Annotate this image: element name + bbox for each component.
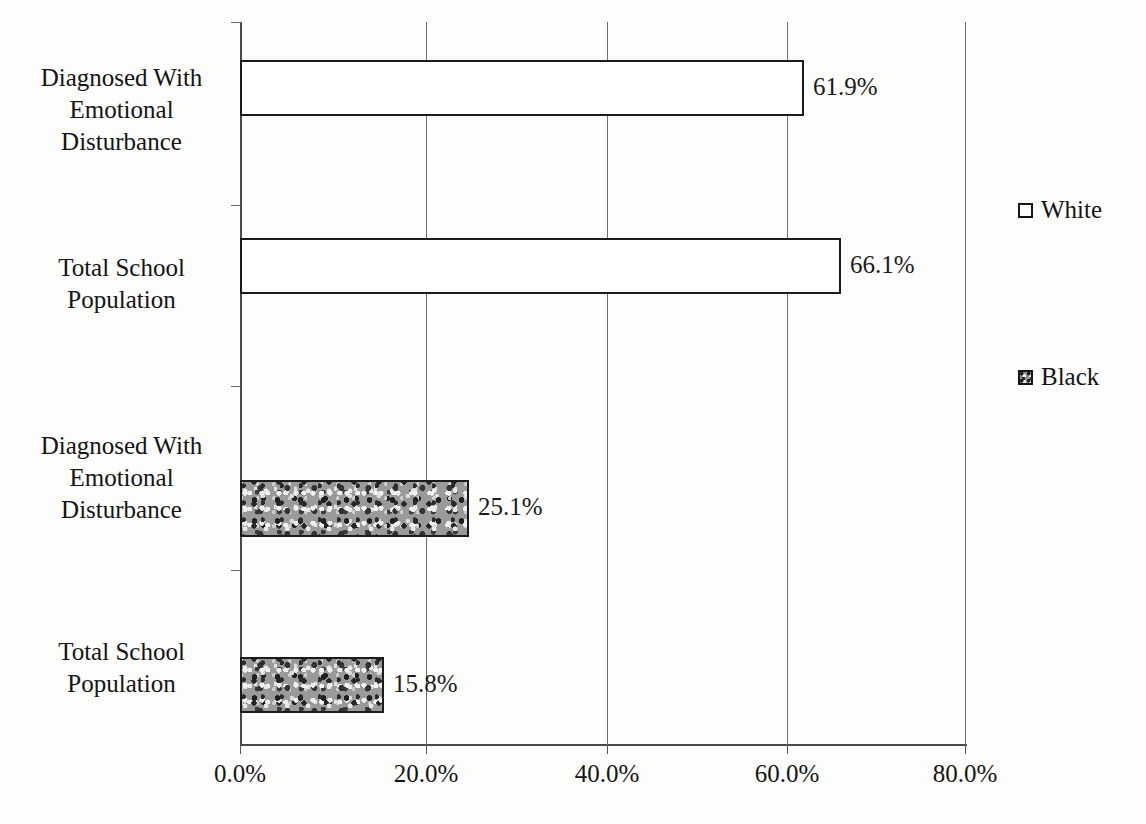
category-line-1: Diagnosed With [14,430,229,462]
data-label-white-total: 66.1% [850,252,915,277]
x-tick-label-40: 40.0% [537,760,677,788]
category-label-black-diagnosed: Diagnosed With Emotional Disturbance [14,430,229,526]
bar-black-total[interactable] [240,657,384,713]
x-tick-label-60: 60.0% [717,760,857,788]
x-axis-line [240,744,967,746]
category-label-white-diagnosed: Diagnosed With Emotional Disturbance [14,62,229,158]
gridline-20 [426,22,427,745]
x-tick-0 [240,746,241,754]
category-line-1: Total School [14,252,229,284]
x-tick-label-0: 0.0% [170,760,310,788]
x-tick-label-80: 80.0% [895,760,1035,788]
legend-label-white: White [1041,196,1102,224]
category-line-2: Emotional [14,462,229,494]
y-tick-2 [231,386,241,387]
category-line-1: Diagnosed With [14,62,229,94]
gridline-40 [607,22,608,745]
x-tick-label-20: 20.0% [356,760,496,788]
data-label-black-diagnosed: 25.1% [478,494,543,519]
y-axis-line [240,22,242,746]
category-line-2: Emotional [14,94,229,126]
category-line-3: Disturbance [14,494,229,526]
y-tick-1 [231,205,241,206]
category-line-2: Population [14,284,229,316]
y-tick-3 [231,570,241,571]
x-tick-40 [607,746,608,754]
y-tick-top [231,22,241,23]
bar-white-total[interactable] [240,238,841,294]
gridline-60 [787,22,788,745]
legend-label-black: Black [1041,363,1099,391]
bar-black-diagnosed[interactable] [240,480,469,537]
bar-white-diagnosed[interactable] [240,60,804,116]
x-tick-60 [787,746,788,754]
legend-item-black[interactable]: Black [1018,363,1099,391]
category-line-2: Population [14,668,229,700]
gridline-80 [965,22,966,745]
category-label-white-total: Total School Population [14,252,229,316]
legend-swatch-black-icon [1018,370,1033,385]
category-line-1: Total School [14,636,229,668]
data-label-black-total: 15.8% [393,671,458,696]
category-line-3: Disturbance [14,126,229,158]
x-tick-20 [426,746,427,754]
legend-swatch-white-icon [1018,203,1033,218]
legend-item-white[interactable]: White [1018,196,1102,224]
bar-chart: 61.9% 66.1% 25.1% 15.8% Diagnosed With E… [0,0,1146,824]
data-label-white-diagnosed: 61.9% [813,74,878,99]
x-tick-80 [965,746,966,754]
category-label-black-total: Total School Population [14,636,229,700]
